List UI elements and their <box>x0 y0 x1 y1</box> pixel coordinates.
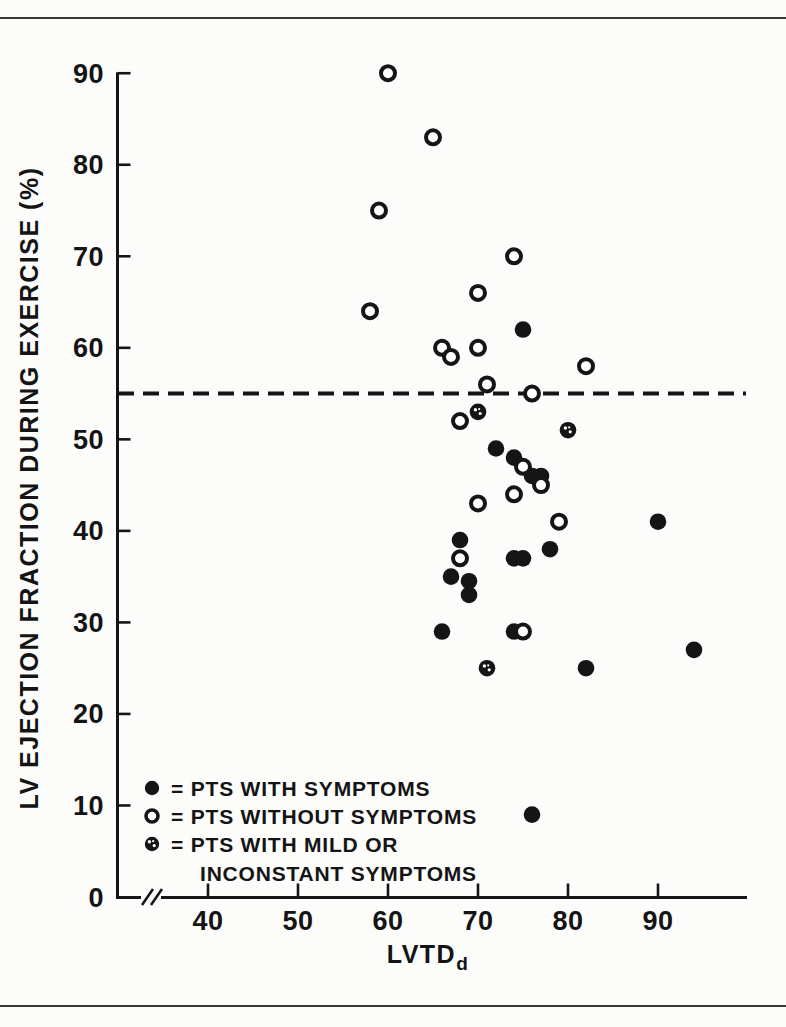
half-filled-speck <box>487 664 489 666</box>
data-point-filled <box>524 806 541 823</box>
half-filled-speck <box>564 426 567 429</box>
y-tick-label: 0 <box>88 883 104 913</box>
data-point-half-filled <box>479 660 496 677</box>
half-filled-speck <box>474 408 477 411</box>
data-point-filled <box>578 660 595 677</box>
series-filled <box>434 321 703 823</box>
half-filled-speck <box>153 844 156 847</box>
half-filled-body <box>145 837 159 851</box>
page-bottom-rule <box>0 1005 786 1007</box>
y-ticks: 0102030405060708090 <box>73 59 131 913</box>
y-tick-label: 20 <box>73 699 104 729</box>
scatter-plot: LV EJECTION FRACTION DURING EXERCISE (%)… <box>0 0 786 1027</box>
data-point-half-filled <box>470 404 487 421</box>
data-point-open <box>471 286 485 300</box>
data-point-open <box>516 625 530 639</box>
legend-label-with-symptoms: = PTS WITH SYMPTOMS <box>171 777 430 800</box>
axes <box>116 72 747 898</box>
x-axis-title-main: LVTD <box>387 940 456 968</box>
data-point-half-filled <box>560 422 577 439</box>
data-point-open <box>471 496 485 510</box>
y-tick-label: 50 <box>73 425 104 455</box>
data-point-filled <box>434 623 451 640</box>
half-filled-speck <box>569 430 572 433</box>
y-tick-label: 60 <box>73 333 104 363</box>
x-axis-title-subscript: d <box>456 953 469 974</box>
y-tick-label: 70 <box>73 242 104 272</box>
data-point-filled <box>488 440 505 457</box>
data-point-open <box>381 66 395 80</box>
x-ticks: 405060708090 <box>192 884 673 937</box>
data-point-open <box>507 249 521 263</box>
y-tick-label: 30 <box>73 608 104 638</box>
data-point-open <box>516 460 530 474</box>
data-point-open <box>453 414 467 428</box>
data-point-filled <box>515 321 532 338</box>
legend-label-mild-symptoms-line1: = PTS WITH MILD OR <box>171 833 398 856</box>
data-point-filled <box>686 642 703 659</box>
y-tick-label: 80 <box>73 150 104 180</box>
data-point-filled <box>443 568 460 585</box>
legend-symbols <box>145 781 159 851</box>
data-point-open <box>480 377 494 391</box>
half-filled-speck <box>478 408 480 410</box>
data-point-open <box>552 515 566 529</box>
x-axis-break <box>142 889 162 905</box>
half-filled-body <box>479 660 496 677</box>
data-point-open <box>426 130 440 144</box>
data-point-open <box>471 341 485 355</box>
half-filled-speck <box>148 840 151 843</box>
data-point-open <box>534 478 548 492</box>
legend-label-without-symptoms: = PTS WITHOUT SYMPTOMS <box>171 805 477 828</box>
data-point-open <box>444 350 458 364</box>
data-point-filled <box>650 513 667 530</box>
x-axis-title: LVTDd <box>387 940 470 974</box>
series-open <box>363 66 593 638</box>
y-tick-label: 40 <box>73 516 104 546</box>
x-tick-label: 90 <box>642 906 673 936</box>
y-tick-label: 90 <box>73 59 104 89</box>
data-point-open <box>453 551 467 565</box>
half-filled-body <box>470 404 487 421</box>
half-filled-speck <box>479 412 482 415</box>
half-filled-speck <box>152 840 154 842</box>
half-filled-speck <box>488 668 491 671</box>
half-filled-speck <box>568 426 570 428</box>
half-filled-speck <box>483 664 486 667</box>
data-point-filled <box>145 781 159 795</box>
x-tick-label: 70 <box>462 906 493 936</box>
page-top-rule <box>0 17 786 19</box>
half-filled-body <box>560 422 577 439</box>
x-tick-label: 40 <box>192 906 223 936</box>
data-point-filled <box>515 550 532 567</box>
data-point-filled <box>452 532 469 549</box>
data-point-open <box>372 204 386 218</box>
legend-label-mild-symptoms-line2: INCONSTANT SYMPTOMS <box>200 862 477 885</box>
y-axis-title: LV EJECTION FRACTION DURING EXERCISE (%) <box>15 167 43 810</box>
data-point-half-filled <box>145 837 159 851</box>
legend-open-circle <box>146 810 158 822</box>
data-point-filled <box>461 587 478 604</box>
data-point-open <box>363 304 377 318</box>
data-point-open <box>525 387 539 401</box>
data-point-open <box>579 359 593 373</box>
x-tick-label: 50 <box>282 906 313 936</box>
data-point-filled <box>542 541 559 558</box>
y-tick-label: 10 <box>73 791 104 821</box>
data-point-open <box>507 487 521 501</box>
x-tick-label: 80 <box>552 906 583 936</box>
x-tick-label: 60 <box>372 906 403 936</box>
